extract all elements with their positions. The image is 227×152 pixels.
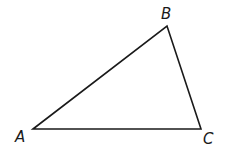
triangle-abc bbox=[33, 26, 201, 129]
triangle-figure bbox=[0, 0, 227, 152]
vertex-label-c: C bbox=[203, 132, 213, 147]
vertex-label-b: B bbox=[161, 7, 171, 22]
vertex-label-a: A bbox=[15, 130, 25, 145]
